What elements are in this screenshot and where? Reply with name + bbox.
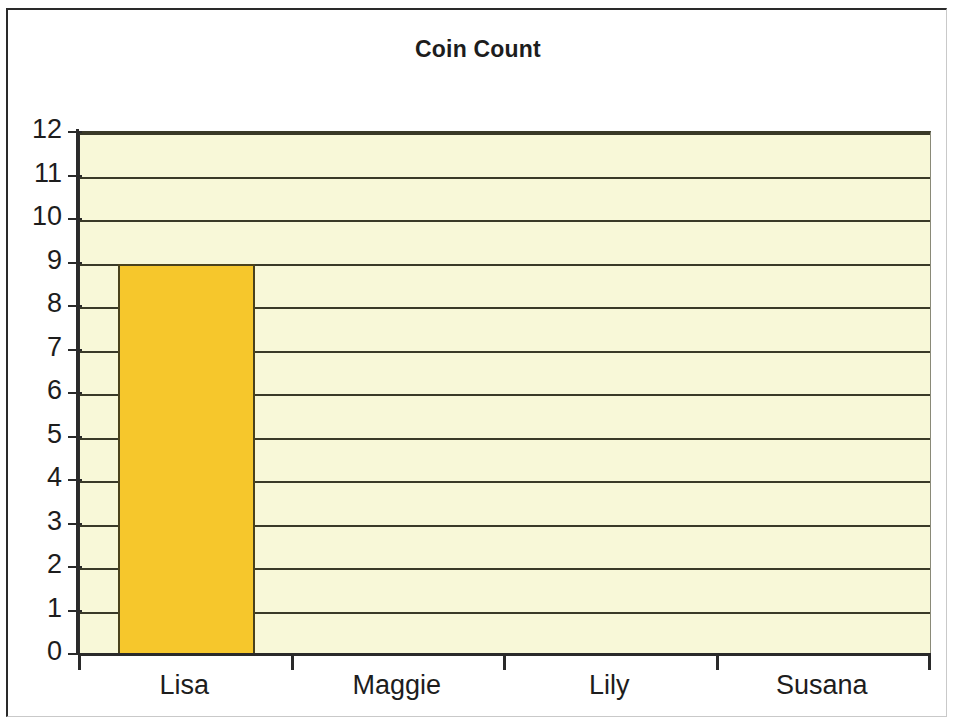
- y-axis-tick: [68, 349, 82, 351]
- x-axis-tick-label: Lisa: [78, 672, 291, 699]
- y-axis-tick: [68, 175, 82, 177]
- y-axis-tick: [68, 610, 82, 612]
- y-axis-tick-label: 12: [6, 116, 62, 143]
- x-axis-tick: [503, 653, 506, 670]
- y-axis-tick: [68, 479, 82, 481]
- plot-area: [78, 131, 931, 655]
- y-axis-tick-label: 10: [6, 203, 62, 230]
- x-axis-tick-label: Lily: [503, 672, 716, 699]
- y-axis-tick-label: 2: [6, 551, 62, 578]
- y-axis-tick: [68, 131, 82, 133]
- y-axis-tick-label: 1: [6, 595, 62, 622]
- x-axis-tick: [716, 653, 719, 670]
- x-axis-tick: [78, 653, 81, 670]
- y-axis-tick-label: 3: [6, 508, 62, 535]
- x-axis-tick: [291, 653, 294, 670]
- y-axis-tick-label: 7: [6, 334, 62, 361]
- gridline: [80, 220, 930, 222]
- y-axis-tick: [68, 436, 82, 438]
- y-axis-tick: [68, 218, 82, 220]
- y-axis-tick-label: 5: [6, 421, 62, 448]
- y-axis-tick-labels: 1211109876543210: [0, 0, 62, 728]
- y-axis-tick-label: 11: [6, 160, 62, 187]
- y-axis-tick-label: 6: [6, 377, 62, 404]
- x-axis-tick-label: Susana: [716, 672, 929, 699]
- y-axis-tick-label: 4: [6, 464, 62, 491]
- y-axis-tick: [68, 262, 82, 264]
- y-axis-tick: [68, 392, 82, 394]
- x-axis-tick-label: Maggie: [291, 672, 504, 699]
- y-axis-tick: [68, 523, 82, 525]
- y-axis-tick-label: 0: [6, 638, 62, 665]
- gridline: [80, 177, 930, 179]
- gridline: [80, 133, 930, 135]
- chart-page: Coin Count 1211109876543210 LisaMaggieLi…: [0, 0, 956, 728]
- x-axis-tick: [928, 653, 931, 670]
- y-axis-tick: [68, 305, 82, 307]
- bar: [118, 264, 255, 656]
- chart-title: Coin Count: [0, 36, 956, 63]
- y-axis-tick-label: 9: [6, 247, 62, 274]
- y-axis-tick: [68, 566, 82, 568]
- y-axis-tick-label: 8: [6, 290, 62, 317]
